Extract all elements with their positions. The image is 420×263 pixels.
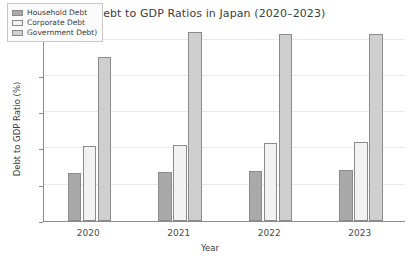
y-tick-mark: [39, 149, 43, 150]
bar: [83, 146, 97, 221]
y-axis-label: Debt to GDP Ratio (%): [12, 34, 22, 224]
bar: [279, 34, 293, 221]
bar: [173, 145, 187, 221]
x-tick-label: 2021: [149, 228, 209, 238]
x-tick-label: 2022: [239, 228, 299, 238]
bar: [354, 142, 368, 221]
legend-item[interactable]: Corporate Debt: [12, 18, 97, 27]
legend-swatch-icon: [12, 10, 23, 16]
legend-label: Government Debt): [27, 28, 97, 37]
bar: [249, 171, 263, 221]
x-tick-label: 2023: [330, 228, 390, 238]
legend-swatch-icon: [12, 20, 23, 26]
y-tick-mark: [39, 222, 43, 223]
chart-figure: Debt to GDP Ratios in Japan (2020–2023) …: [0, 0, 420, 263]
x-tick-label: 2020: [58, 228, 118, 238]
bar: [188, 32, 202, 221]
bar: [339, 170, 353, 221]
y-tick-mark: [39, 77, 43, 78]
bar: [98, 57, 112, 221]
bar: [68, 173, 82, 221]
legend-item[interactable]: Household Debt: [12, 8, 97, 17]
y-tick-mark: [39, 186, 43, 187]
bar: [264, 143, 278, 221]
legend-label: Corporate Debt: [27, 18, 85, 27]
chart-legend: Household DebtCorporate DebtGovernment D…: [7, 3, 103, 42]
bar: [158, 172, 172, 221]
legend-item[interactable]: Government Debt): [12, 28, 97, 37]
y-tick-mark: [39, 113, 43, 114]
bar: [369, 34, 383, 221]
legend-label: Household Debt: [27, 8, 87, 17]
x-axis-label: Year: [0, 243, 420, 253]
legend-swatch-icon: [12, 30, 23, 36]
plot-area: [43, 26, 405, 222]
